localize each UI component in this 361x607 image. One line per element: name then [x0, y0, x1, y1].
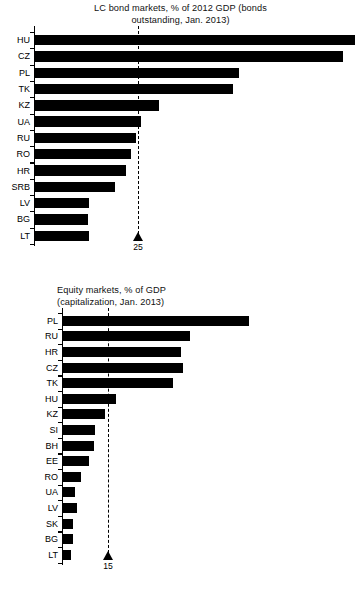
- bar-row: LT: [0, 228, 361, 244]
- category-label: LT: [20, 231, 30, 240]
- bar-row: RU: [0, 329, 361, 345]
- axis-tick: [58, 563, 62, 564]
- axis-tick: [30, 211, 34, 212]
- axis-tick: [30, 130, 34, 131]
- category-label: LT: [48, 550, 58, 559]
- category-label: SI: [49, 425, 58, 434]
- category-label: KZ: [18, 101, 30, 110]
- category-label: TK: [46, 379, 58, 388]
- axis-tick: [30, 162, 34, 163]
- axis-tick: [30, 179, 34, 180]
- bar-row: HR: [0, 162, 361, 178]
- bar-bh: [63, 441, 94, 451]
- bond-markets-plot-area: 25 HUCZPLTKKZUARUROHRSRBLVBGLT: [0, 26, 361, 248]
- axis-tick: [58, 344, 62, 345]
- category-label: SRB: [11, 182, 30, 191]
- axis-tick: [58, 531, 62, 532]
- bar-row: KZ: [0, 407, 361, 423]
- bar-row: RO: [0, 469, 361, 485]
- category-label: HR: [17, 166, 30, 175]
- equity-markets-chart: Equity markets, % of GDP (capitalization…: [0, 283, 361, 607]
- category-label: BG: [17, 215, 30, 224]
- category-label: CZ: [18, 52, 30, 61]
- bar-ru: [35, 133, 136, 143]
- equity-markets-chart-title: Equity markets, % of GDP (capitalization…: [0, 283, 361, 308]
- bar-hr: [63, 347, 181, 357]
- bar-row: LT: [0, 547, 361, 563]
- bar-row: PL: [0, 65, 361, 81]
- bar-pl: [63, 316, 249, 326]
- axis-tick: [58, 438, 62, 439]
- bar-row: RU: [0, 130, 361, 146]
- bar-row: SK: [0, 516, 361, 532]
- axis-tick: [30, 48, 34, 49]
- axis-tick: [58, 516, 62, 517]
- category-label: PL: [19, 68, 30, 77]
- category-label: HU: [45, 394, 58, 403]
- bar-kz: [63, 409, 105, 419]
- category-label: HR: [45, 347, 58, 356]
- bar-ru: [63, 331, 190, 341]
- bar-sk: [63, 519, 73, 529]
- bar-row: HR: [0, 344, 361, 360]
- bar-kz: [35, 100, 159, 110]
- bar-row: CZ: [0, 48, 361, 64]
- axis-tick: [58, 469, 62, 470]
- bar-row: SI: [0, 422, 361, 438]
- category-label: CZ: [46, 363, 58, 372]
- axis-tick: [58, 329, 62, 330]
- equity-markets-plot-area: 15 PLRUHRCZTKHUKZSIBHEEROUALVSKBGLT: [0, 308, 361, 567]
- axis-tick: [30, 32, 34, 33]
- axis-tick: [30, 114, 34, 115]
- bar-ua: [63, 487, 75, 497]
- bar-tk: [63, 378, 173, 388]
- category-label: LV: [48, 503, 58, 512]
- axis-tick: [30, 97, 34, 98]
- axis-tick: [58, 453, 62, 454]
- category-label: EE: [46, 457, 58, 466]
- bar-row: BG: [0, 531, 361, 547]
- axis-tick: [58, 500, 62, 501]
- axis-tick: [30, 146, 34, 147]
- axis-tick: [30, 195, 34, 196]
- bar-bg: [63, 534, 73, 544]
- category-label: TK: [18, 85, 30, 94]
- bar-tk: [35, 84, 233, 94]
- bar-cz: [35, 51, 343, 61]
- bar-bg: [35, 214, 88, 224]
- bar-row: HU: [0, 391, 361, 407]
- category-label: PL: [47, 316, 58, 325]
- axis-tick: [58, 485, 62, 486]
- bar-row: UA: [0, 485, 361, 501]
- bar-row: BG: [0, 211, 361, 227]
- bar-lt: [35, 231, 89, 241]
- bar-row: CZ: [0, 360, 361, 376]
- bar-pl: [35, 68, 239, 78]
- bar-hu: [35, 35, 355, 45]
- axis-tick: [58, 407, 62, 408]
- bar-hu: [63, 394, 116, 404]
- bar-row: KZ: [0, 97, 361, 113]
- axis-tick: [58, 547, 62, 548]
- bar-srb: [35, 182, 115, 192]
- bar-ro: [63, 472, 81, 482]
- bond-markets-chart: LC bond markets, % of 2012 GDP (bonds ou…: [0, 0, 361, 280]
- bar-row: LV: [0, 195, 361, 211]
- category-label: SK: [46, 519, 58, 528]
- axis-tick: [30, 228, 34, 229]
- axis-tick: [30, 65, 34, 66]
- bar-cz: [63, 363, 183, 373]
- bar-si: [63, 425, 95, 435]
- bar-lt: [63, 550, 71, 560]
- bar-ee: [63, 456, 89, 466]
- bar-lv: [63, 503, 77, 513]
- category-label: HU: [17, 36, 30, 45]
- bar-lv: [35, 198, 89, 208]
- axis-tick: [30, 81, 34, 82]
- bar-row: TK: [0, 375, 361, 391]
- axis-tick: [58, 391, 62, 392]
- axis-tick: [58, 360, 62, 361]
- category-label: UA: [45, 488, 58, 497]
- equity-markets-reference-label: 15: [88, 562, 128, 571]
- bar-row: EE: [0, 453, 361, 469]
